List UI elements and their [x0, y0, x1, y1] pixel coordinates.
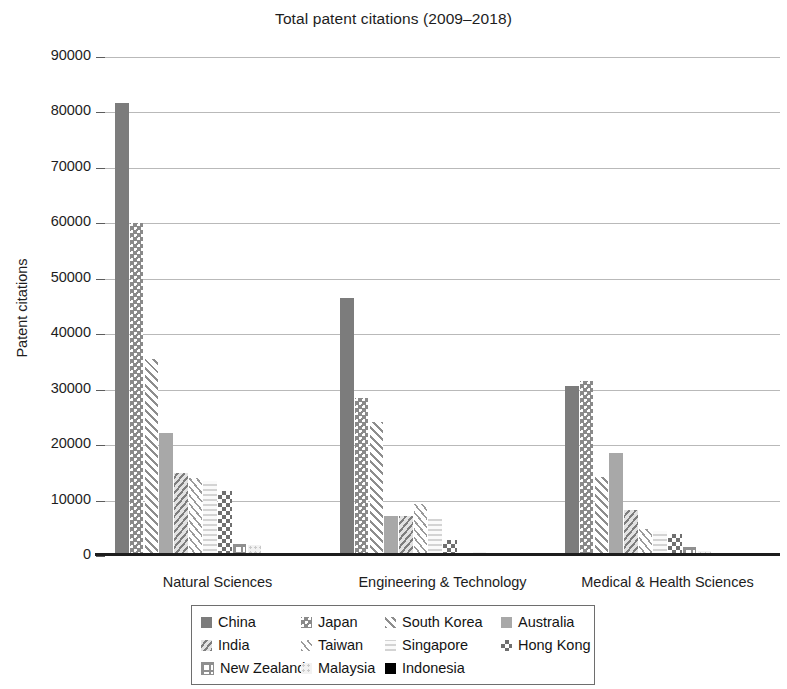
legend-swatch-icon [301, 617, 312, 628]
y-axis-tick-label: 0 [83, 546, 91, 562]
bar-india[interactable] [624, 510, 638, 556]
chart-title: Total patent citations (2009–2018) [0, 10, 787, 28]
legend-item-australia[interactable]: Australia [501, 611, 574, 634]
bar-southkorea[interactable] [595, 477, 609, 556]
bar-hongkong[interactable] [218, 491, 232, 556]
legend-label: India [218, 638, 249, 653]
y-axis-tick-mark [96, 223, 105, 224]
bar-australia[interactable] [159, 433, 173, 556]
legend-swatch-icon [201, 640, 212, 651]
legend-item-indonesia[interactable]: Indonesia [385, 657, 465, 680]
y-axis-tick-mark [96, 501, 105, 502]
legend-swatch-icon [501, 617, 512, 628]
bar-southkorea[interactable] [145, 359, 159, 556]
legend-label: Australia [518, 615, 574, 630]
legend-swatch-icon [385, 663, 396, 674]
y-axis-tick-label: 60000 [51, 213, 91, 229]
y-axis-tick-mark [96, 390, 105, 391]
legend-item-india[interactable]: India [201, 634, 249, 657]
legend-label: Singapore [402, 638, 468, 653]
chart-legend: ChinaJapanSouth KoreaAustraliaIndiaTaiwa… [191, 605, 595, 685]
bar-japan[interactable] [130, 223, 144, 556]
legend-label: Hong Kong [518, 638, 591, 653]
x-axis-group-label: Medical & Health Sciences [555, 574, 780, 590]
bar-taiwan[interactable] [189, 478, 203, 556]
y-axis-title: Patent citations [14, 208, 30, 408]
bar-japan[interactable] [355, 398, 369, 556]
x-axis-group-label: Natural Sciences [105, 574, 330, 590]
y-axis-tick-mark [96, 279, 105, 280]
bar-china[interactable] [565, 386, 579, 556]
bar-singapore[interactable] [428, 519, 442, 556]
bar-group: Engineering & Technology [330, 57, 555, 556]
legend-swatch-icon [501, 640, 512, 651]
legend-swatch-icon [301, 640, 312, 651]
bar-australia[interactable] [609, 453, 623, 556]
y-axis-tick-label: 10000 [51, 491, 91, 507]
y-axis-tick-label: 70000 [51, 158, 91, 174]
plot-area: 0100002000030000400005000060000700008000… [105, 57, 780, 556]
y-axis-tick-label: 20000 [51, 435, 91, 451]
bar-australia[interactable] [384, 516, 398, 556]
legend-item-newzealand[interactable]: New Zealand [201, 657, 305, 680]
x-axis-group-label: Engineering & Technology [330, 574, 555, 590]
bar-singapore[interactable] [203, 481, 217, 556]
legend-label: Japan [318, 615, 358, 630]
legend-item-taiwan[interactable]: Taiwan [301, 634, 363, 657]
bar-taiwan[interactable] [414, 504, 428, 556]
legend-swatch-icon [385, 617, 396, 628]
bar-taiwan[interactable] [639, 529, 653, 556]
y-axis-tick-label: 40000 [51, 324, 91, 340]
y-axis-tick-label: 30000 [51, 380, 91, 396]
legend-item-japan[interactable]: Japan [301, 611, 358, 634]
bar-group: Natural Sciences [105, 57, 330, 556]
bar-china[interactable] [340, 298, 354, 556]
y-axis-tick-label: 50000 [51, 269, 91, 285]
legend-swatch-icon [201, 617, 212, 628]
legend-label: Taiwan [318, 638, 363, 653]
bar-japan[interactable] [580, 381, 594, 556]
legend-label: China [218, 615, 256, 630]
legend-swatch-icon [201, 662, 214, 675]
legend-item-singapore[interactable]: Singapore [385, 634, 468, 657]
bar-india[interactable] [399, 516, 413, 556]
bar-china[interactable] [115, 103, 129, 556]
y-axis-tick-label: 90000 [51, 47, 91, 63]
y-axis-tick-mark [96, 334, 105, 335]
y-axis-tick-label: 80000 [51, 102, 91, 118]
legend-label: South Korea [402, 615, 483, 630]
legend-label: Malaysia [318, 661, 375, 676]
legend-swatch-icon [385, 640, 396, 651]
legend-item-malaysia[interactable]: Malaysia [301, 657, 375, 680]
y-axis-tick-mark [96, 57, 105, 58]
bar-group: Medical & Health Sciences [555, 57, 780, 556]
y-axis-tick-mark [96, 445, 105, 446]
y-axis-tick-mark [96, 112, 105, 113]
bar-southkorea[interactable] [370, 422, 384, 556]
chart-figure: Total patent citations (2009–2018) Paten… [0, 0, 787, 689]
legend-label: Indonesia [402, 661, 465, 676]
legend-swatch-icon [301, 663, 312, 674]
y-axis-tick-mark [96, 556, 105, 557]
legend-item-hongkong[interactable]: Hong Kong [501, 634, 591, 657]
gridline [105, 556, 780, 557]
legend-item-china[interactable]: China [201, 611, 256, 634]
legend-item-southkorea[interactable]: South Korea [385, 611, 483, 634]
legend-label: New Zealand [220, 661, 305, 676]
bar-india[interactable] [174, 473, 188, 556]
x-axis-line [95, 553, 780, 556]
y-axis-tick-mark [96, 168, 105, 169]
